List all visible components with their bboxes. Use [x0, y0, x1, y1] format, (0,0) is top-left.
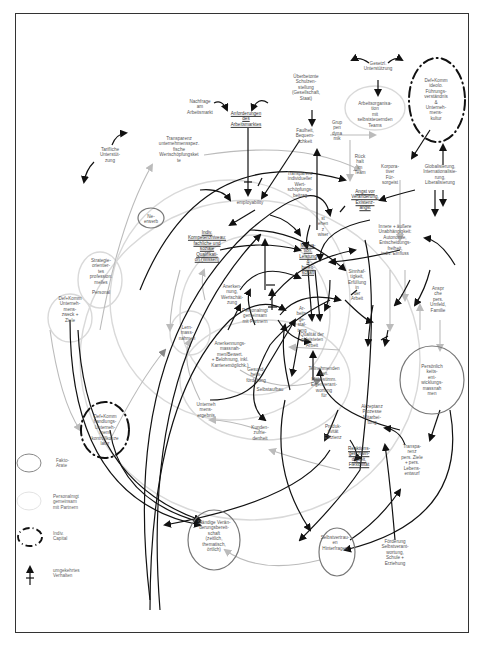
node-def_kunden: Def+Komm handlungs- Unterneh- mens kontr…: [91, 414, 118, 446]
node-unternehmenskultur: Def+Komm ideolo. Führungs- verständnis &…: [424, 78, 448, 121]
node-produktivitaet: Produk- tivität Effizienz: [324, 424, 341, 440]
node-arbeitsorganisation: Arbeitsorganisa- tion mit selbststeuernd…: [358, 101, 393, 128]
legend-label-fakto: Fakto- Arate: [56, 458, 69, 469]
node-motivation: Motiva- tion: Leistung & bereit- schaft: [299, 243, 316, 275]
node-faulheit: Faulheit, Bequem- lichkeit: [296, 128, 315, 144]
node-ueberbetonte: Überbetonte Schulzen- stellung (Gesellsc…: [292, 74, 320, 101]
causal-loop-canvas: [0, 0, 484, 649]
node-unternehmensergebnis: Unterneh mens- ergebnis: [197, 402, 216, 418]
node-reaktion: Reaktions- geschwin- digkeit, Flexibilit…: [348, 446, 370, 468]
strong-links: [70, 59, 455, 610]
node-gesetz: Gesetzl. Unterstützung: [364, 61, 393, 72]
node-nachfrage: Nachfrage am Arbeitsmarkt: [187, 99, 213, 115]
node-globalisierung: Globalisierung, Internationalisie- rung,…: [423, 164, 457, 186]
node-strategie: Strategie- orientier- tes profession. me…: [90, 258, 112, 285]
node-innere_aeussere: Innere + äußere Unabhängigkeit: Autonomi…: [378, 224, 411, 256]
node-foerderung: Förderung Selbstverant- wortung, Schule …: [381, 539, 408, 566]
node-transparenz_ind: Transparenz individueller Wert- schöpfun…: [287, 171, 313, 198]
node-personal: Personal: [92, 290, 110, 295]
node-teilnehmenden: Teilnehmenden ken. Mitbestimm. Eigenvera…: [308, 366, 339, 398]
node-kundenzufriedenheit: Kunden- zufrie- denheit: [251, 425, 268, 441]
node-def_unternehmenszweck: Def+Komm Unterneh- mens- zweck + Ziele: [58, 296, 81, 323]
node-anerkennung: Anerken- nung, Wertschät- zung: [221, 284, 243, 306]
legend-label-personalmgt: Personalmgt gemeinsam mit Partnern: [53, 494, 79, 510]
node-lernmassnahmen: Lern- mass- nahmen: [179, 325, 196, 341]
node-gruppendynamik: Grup pen dyna mik: [332, 120, 342, 142]
node-selbstaufbau: Selbstaufbau: [257, 387, 284, 392]
node-rueckhalt: Rück halt im Team: [354, 154, 365, 176]
node-qualitaet: Qualität der geleisteten Arbeit: [300, 332, 324, 348]
node-persoenlichkeit: Persönlich keits- ent- wicklungs- massna…: [421, 364, 442, 396]
node-angst: Angst vor Veränderung, Existenz- angst: [351, 189, 379, 211]
node-anspruch: Anspr che pers. Umfeld, Familie: [430, 286, 446, 313]
node-arbeitsgestaltung: Ar- beits- ge- stal- tung: [296, 306, 307, 333]
legend-label-capital: Indiv. Capital: [53, 531, 67, 542]
node-transparenz_unt: Transparenz unternehmensspez. fische Wer…: [159, 136, 199, 163]
node-anforderungen: Anforderungen des Arbeitsmarktes: [231, 111, 262, 127]
node-akzeptanz: Akzeptanz Prozesse Mitarbei- tung: [361, 404, 382, 426]
legend-dashed-ellipse: [18, 528, 42, 546]
node-indiv_kompetenzen: Indiv. Kompetenzniveau: fachliche und so…: [188, 230, 226, 262]
node-stehen: st ehen z wiser: [318, 216, 329, 238]
node-korporatismus: Korpora- tiver Für- sorgeist: [381, 164, 399, 186]
node-transparenz_ziele: Transpa- renz pers. Ziele + pers. Lebens…: [401, 444, 422, 476]
legend-light-ellipse: [17, 492, 41, 510]
node-anerkennungsmassnahmen: Anerkennungs- massnah- men/Bewert. + Bel…: [211, 341, 248, 368]
dashed-ellipses: [81, 58, 465, 458]
node-tarifliche: Tarifliche Unterstüt- zung: [100, 147, 120, 163]
node-gesundheit: Gesund- heits- förderung: [246, 367, 266, 383]
node-sinnhaftigkeit: Sinnhaf- tigkeit, Erfüllung in der Arbei…: [348, 269, 366, 301]
node-selbstvertrauen: Selbstvertrau- en Hinterfragen: [321, 535, 350, 551]
node-personalmgmt: Personalmgt gemeinsam mit Partnern: [242, 308, 268, 324]
legend-solid-ellipse: [17, 454, 41, 472]
node-nebenerwerb: Ne- erwerb: [144, 214, 158, 225]
legend-symbols: [17, 454, 42, 585]
node-employability: employability: [237, 200, 264, 205]
legend-label-inverse: umgekehrtes Verhalten: [53, 568, 80, 579]
node-staendige: Ständige Verän- derungsbereit- schaft (z…: [198, 520, 231, 552]
